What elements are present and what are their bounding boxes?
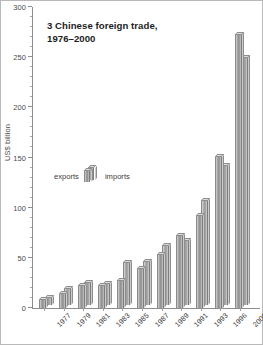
bar-side-face — [95, 165, 97, 180]
x-tick-label: 1979 — [74, 311, 92, 329]
x-tick — [201, 308, 202, 311]
y-tick-minor — [30, 36, 32, 37]
x-tick — [162, 308, 163, 311]
y-tick-major — [28, 6, 32, 7]
y-tick-minor — [30, 227, 32, 228]
bar-exports — [235, 34, 242, 308]
x-tick — [142, 308, 143, 311]
y-tick-label: 50 — [17, 253, 26, 262]
bar-exports — [39, 300, 46, 308]
y-tick-minor — [30, 96, 32, 97]
bar-exports — [98, 286, 105, 308]
y-tick-minor — [30, 126, 32, 127]
bar-side-face — [130, 260, 132, 305]
x-tick — [44, 308, 45, 311]
bar-exports — [196, 216, 203, 308]
y-tick-label: 0 — [22, 304, 26, 313]
y-tick-minor — [30, 267, 32, 268]
y-tick-minor — [30, 136, 32, 137]
x-tick — [64, 308, 65, 311]
bar-side-face — [228, 163, 230, 305]
bar-exports — [137, 269, 144, 308]
bar-body — [157, 255, 164, 308]
bar-side-face — [110, 281, 112, 305]
y-tick-major — [28, 157, 32, 158]
bar-side-face — [183, 233, 185, 308]
x-tick-label: 1991 — [192, 311, 210, 329]
legend-bar-icon — [84, 164, 100, 182]
y-tick-major — [28, 106, 32, 107]
bar-side-face — [248, 55, 250, 305]
bar-side-face — [164, 252, 166, 308]
bar-body — [235, 34, 242, 308]
y-tick-minor — [30, 26, 32, 27]
y-tick-minor — [30, 177, 32, 178]
y-tick-label: 300 — [13, 3, 26, 12]
x-tick-label: 1985 — [133, 311, 151, 329]
bar-body — [98, 286, 105, 308]
bar-body — [39, 300, 46, 308]
bar-side-face — [189, 238, 191, 305]
x-tick — [103, 308, 104, 311]
bar-side-face — [150, 259, 152, 305]
y-tick-minor — [30, 167, 32, 168]
y-tick-major — [28, 56, 32, 57]
x-tick-label: 1977 — [55, 311, 73, 329]
chart-frame: 3 Chinese foreign trade, 1976–2000 US$ b… — [0, 0, 263, 345]
bar-side-face — [169, 243, 171, 305]
bar-side-face — [242, 31, 244, 308]
x-axis-line — [32, 308, 260, 309]
y-tick-minor — [30, 247, 32, 248]
y-tick-minor — [30, 86, 32, 87]
y-tick-minor — [30, 116, 32, 117]
legend-label-imports: imports — [105, 172, 130, 182]
x-tick-label: 2000 — [251, 311, 263, 329]
bar-side-face — [66, 291, 68, 308]
y-tick-minor — [30, 146, 32, 147]
x-tick-label: 1993 — [212, 311, 230, 329]
bar-exports — [215, 157, 222, 309]
x-tick-label: 1983 — [114, 311, 132, 329]
bar-side-face — [203, 213, 205, 308]
y-tick-minor — [30, 217, 32, 218]
y-tick-minor — [30, 297, 32, 298]
bar-body — [137, 269, 144, 308]
y-tick-major — [28, 307, 32, 308]
y-tick-label: 100 — [13, 203, 26, 212]
x-tick-label: 1989 — [172, 311, 190, 329]
bar-exports — [157, 255, 164, 308]
y-tick-minor — [30, 66, 32, 67]
bar-body — [84, 171, 90, 182]
y-tick-major — [28, 257, 32, 258]
bar-side-face — [85, 283, 87, 308]
plot-area: 050100150200250300 — [32, 7, 260, 308]
x-tick-label: 1981 — [94, 311, 112, 329]
y-tick-label: 200 — [13, 103, 26, 112]
y-tick-minor — [30, 277, 32, 278]
y-tick-label: 250 — [13, 53, 26, 62]
y-tick-minor — [30, 237, 32, 238]
x-tick-label: 1987 — [153, 311, 171, 329]
y-tick-minor — [30, 197, 32, 198]
bar-exports — [117, 281, 124, 308]
x-tick-label: 1996 — [231, 311, 249, 329]
y-tick-major — [28, 207, 32, 208]
bar-side-face — [208, 198, 210, 305]
y-tick-minor — [30, 76, 32, 77]
y-tick-minor — [30, 287, 32, 288]
bar-side-face — [71, 286, 73, 305]
y-tick-label: 150 — [13, 153, 26, 162]
bar-body — [196, 216, 203, 308]
bar-side-face — [144, 266, 146, 308]
bar-exports — [84, 171, 90, 182]
bar-exports — [176, 236, 183, 308]
bar-exports — [59, 294, 66, 308]
bar-body — [59, 294, 66, 308]
x-tick — [240, 308, 241, 311]
y-axis-title: US$ billion — [3, 124, 12, 161]
chart-legend: exports imports — [54, 164, 130, 182]
bar-side-face — [105, 283, 107, 308]
bar-side-face — [91, 280, 93, 305]
y-tick-minor — [30, 16, 32, 17]
legend-label-exports: exports — [54, 172, 79, 182]
